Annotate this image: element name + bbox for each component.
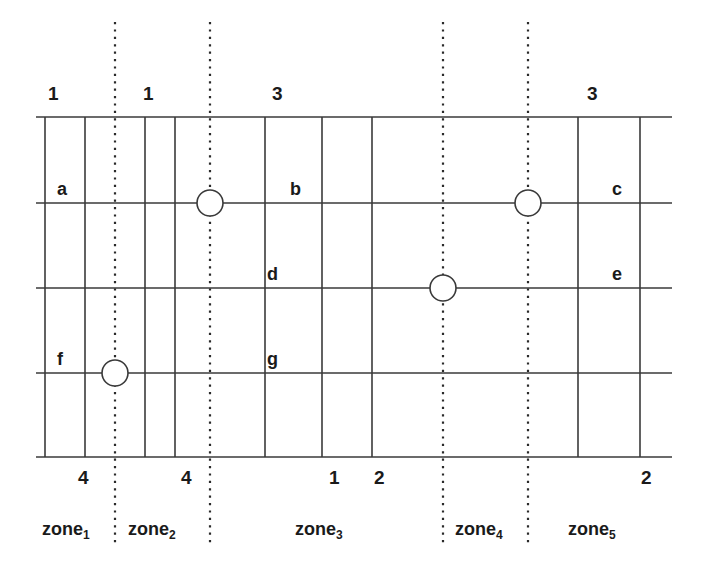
top-number-value: 1 <box>143 83 154 104</box>
bottom-number-value: 2 <box>641 467 652 488</box>
zone-label-2: zone2 <box>128 520 176 538</box>
top-number-2: 1 <box>143 84 154 103</box>
zone-label-1: zone1 <box>42 520 90 538</box>
zone-label-5: zone5 <box>568 520 616 538</box>
cell-letter-value: a <box>57 179 67 199</box>
cell-letter-5: e <box>612 265 622 283</box>
cell-letter-value: e <box>612 264 622 284</box>
horizontal-grid-lines <box>36 117 672 457</box>
top-number-value: 3 <box>272 83 283 104</box>
top-number-4: 3 <box>587 84 598 103</box>
cell-letter-1: a <box>57 180 67 198</box>
cell-letter-value: c <box>612 179 622 199</box>
top-number-1: 1 <box>48 84 59 103</box>
top-number-3: 3 <box>272 84 283 103</box>
bottom-number-5: 2 <box>641 468 652 487</box>
cell-letter-7: g <box>267 350 278 368</box>
bottom-number-value: 4 <box>78 467 89 488</box>
cell-letter-2: b <box>290 180 301 198</box>
top-number-value: 3 <box>587 83 598 104</box>
zone-label-index: 3 <box>336 528 343 542</box>
cell-letter-6: f <box>57 350 63 368</box>
bottom-number-4: 2 <box>374 468 385 487</box>
bottom-number-value: 1 <box>329 467 340 488</box>
zone-label-text: zone <box>455 519 496 539</box>
cell-letter-value: b <box>290 179 301 199</box>
zone-label-text: zone <box>128 519 169 539</box>
zone-label-text: zone <box>42 519 83 539</box>
zone-label-index: 4 <box>496 528 503 542</box>
vertical-grid-lines <box>45 117 640 457</box>
bottom-number-value: 2 <box>374 467 385 488</box>
zone-label-index: 5 <box>609 528 616 542</box>
bottom-number-value: 4 <box>181 467 192 488</box>
zone-label-text: zone <box>568 519 609 539</box>
bottom-number-1: 4 <box>78 468 89 487</box>
cell-letter-value: d <box>267 264 278 284</box>
bottom-number-3: 1 <box>329 468 340 487</box>
cell-letter-value: f <box>57 349 63 369</box>
node-zone3-row2 <box>430 275 456 301</box>
zone-label-text: zone <box>295 519 336 539</box>
cell-letter-value: g <box>267 349 278 369</box>
zone-label-index: 2 <box>169 528 176 542</box>
top-number-value: 1 <box>48 83 59 104</box>
node-zone2-row1 <box>197 190 223 216</box>
figure-canvas: 1133 44122 abcdefg zone1zone2zone3zone4z… <box>0 0 721 576</box>
grid-diagram-svg <box>0 0 721 576</box>
cell-letter-4: d <box>267 265 278 283</box>
zone-label-4: zone4 <box>455 520 503 538</box>
cell-letter-3: c <box>612 180 622 198</box>
bottom-number-2: 4 <box>181 468 192 487</box>
zone-label-3: zone3 <box>295 520 343 538</box>
node-zone1-row3 <box>102 360 128 386</box>
zone-label-index: 1 <box>83 528 90 542</box>
node-zone4-row1 <box>515 190 541 216</box>
